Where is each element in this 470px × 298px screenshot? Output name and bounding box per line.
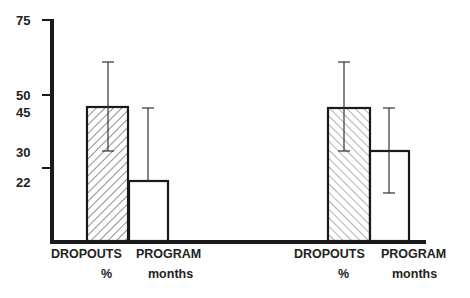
bar-group-2: DROPOUTS % PROGRAM months [294, 62, 446, 281]
y-tick-label-50: 50 [16, 88, 30, 103]
category-label-dropouts-2: DROPOUTS [294, 247, 365, 261]
unit-label-months-1: months [148, 267, 193, 281]
y-tick-label-22: 22 [16, 175, 30, 190]
error-bar-program-1 [142, 108, 154, 181]
y-tick-label-45: 45 [16, 105, 30, 120]
category-label-program-1: PROGRAM [136, 247, 201, 261]
category-label-program-2: PROGRAM [381, 247, 446, 261]
category-label-dropouts-1: DROPOUTS [51, 247, 122, 261]
y-tick-label-75: 75 [16, 13, 30, 28]
bar-program-1 [129, 181, 168, 241]
y-axis: 75 50 45 30 22 [16, 13, 52, 243]
unit-label-percent-2: % [338, 267, 349, 281]
bar-group-1: DROPOUTS % PROGRAM months [51, 62, 201, 281]
unit-label-months-2: months [392, 267, 437, 281]
bar-dropouts-2 [328, 108, 370, 241]
unit-label-percent-1: % [101, 267, 112, 281]
bar-chart: 75 50 45 30 22 DROPOUTS % PROGRAM months [0, 0, 470, 298]
y-tick-label-30: 30 [16, 145, 30, 160]
